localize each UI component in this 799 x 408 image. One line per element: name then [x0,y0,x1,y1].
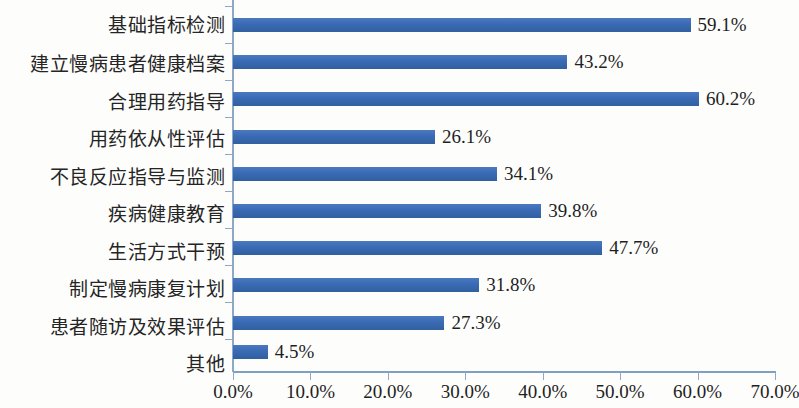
bar-value-3: 26.1% [442,127,491,146]
bar-3 [233,130,435,144]
bar-value-1: 43.2% [574,52,623,71]
bar-value-0: 59.1% [698,15,747,34]
x-axis-label-1: 10.0% [286,382,335,402]
x-axis-tick [233,372,234,380]
y-axis-tick [225,80,233,81]
category-label-9: 其他 [0,355,225,374]
x-axis-label-3: 30.0% [441,382,490,402]
x-axis-label-2: 20.0% [363,382,412,402]
category-label-2: 合理用药指导 [0,93,225,112]
bar-value-5: 39.8% [548,201,597,220]
y-axis-tick [225,228,233,229]
bar-0 [233,18,691,32]
x-axis-label-6: 60.0% [673,382,722,402]
category-label-4: 不良反应指导与监测 [0,168,225,187]
bar-1 [233,55,567,69]
y-axis-tick [225,265,233,266]
x-axis-tick [543,372,544,380]
y-axis-tick [225,43,233,44]
bar-chart: 基础指标检测 建立慢病患者健康档案 合理用药指导 用药依从性评估 不良反应指导与… [0,0,799,408]
x-axis-tick [310,372,311,380]
bar-value-8: 27.3% [451,313,500,332]
category-label-8: 患者随访及效果评估 [0,318,225,337]
y-axis-tick [225,339,233,340]
bar-2 [233,92,699,106]
category-label-1: 建立慢病患者健康档案 [0,55,225,74]
category-label-5: 疾病健康教育 [0,205,225,224]
category-label-6: 生活方式干预 [0,243,225,262]
bar-7 [233,278,479,292]
y-axis-tick [225,302,233,303]
category-label-0: 基础指标检测 [0,16,225,35]
bar-value-2: 60.2% [706,89,755,108]
category-label-7: 制定慢病康复计划 [0,280,225,299]
y-axis-tick [225,117,233,118]
bar-5 [233,204,541,218]
y-axis-tick [225,154,233,155]
bar-6 [233,241,602,255]
bar-9 [233,345,268,359]
x-axis-label-4: 40.0% [518,382,567,402]
x-axis-tick [775,372,776,380]
y-axis-tick [225,6,233,7]
y-axis-tick [225,191,233,192]
plot-area: 59.1% 43.2% 60.2% 26.1% 34.1% 39.8% 47.7… [233,0,775,372]
bar-value-6: 47.7% [609,238,658,257]
x-axis-label-5: 50.0% [596,382,645,402]
bar-value-9: 4.5% [275,342,315,361]
x-axis-label-7: 70.0% [750,382,799,402]
bar-8 [233,316,444,330]
x-axis-tick [698,372,699,380]
category-label-3: 用药依从性评估 [0,130,225,149]
x-axis-tick [388,372,389,380]
x-axis-tick [620,372,621,380]
x-axis-label-0: 0.0% [213,382,253,402]
bar-4 [233,167,497,181]
x-axis-tick [465,372,466,380]
bar-value-4: 34.1% [504,164,553,183]
bar-value-7: 31.8% [486,275,535,294]
